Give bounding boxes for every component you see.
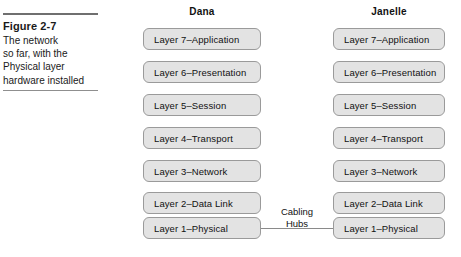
column-title-dana: Dana [143, 6, 261, 17]
caption-line-1: The network [3, 34, 98, 47]
layer-label: Layer 7–Application [144, 34, 239, 45]
layer-box-dana-5: Layer 5–Session [143, 94, 261, 116]
physical-link-label-cabling: Cabling [266, 206, 328, 218]
layer-label: Layer 3–Network [334, 166, 417, 177]
caption-line-3: Physical layer [3, 60, 98, 73]
layer-label: Layer 5–Session [334, 100, 416, 111]
physical-link-label: Cabling Hubs [266, 206, 328, 229]
figure-caption: Figure 2-7 The network so far, with the … [3, 13, 98, 91]
layer-label: Layer 2–Data Link [144, 198, 233, 209]
layer-box-janelle-4: Layer 4–Transport [333, 127, 445, 149]
layer-label: Layer 2–Data Link [334, 198, 423, 209]
layer-box-janelle-6: Layer 6–Presentation [333, 61, 445, 83]
layer-box-janelle-7: Layer 7–Application [333, 28, 445, 50]
figure-number-label: Figure 2-7 [3, 19, 98, 33]
layer-box-janelle-2: Layer 2–Data Link [333, 192, 445, 214]
caption-bottom-rule [3, 90, 98, 91]
caption-top-rule [3, 13, 98, 15]
layer-box-dana-3: Layer 3–Network [143, 160, 261, 182]
layer-box-dana-6: Layer 6–Presentation [143, 61, 261, 83]
layer-label: Layer 7–Application [334, 34, 429, 45]
layer-label: Layer 4–Transport [144, 133, 233, 144]
figure-canvas: Figure 2-7 The network so far, with the … [0, 0, 461, 257]
layer-label: Layer 6–Presentation [334, 67, 436, 78]
caption-line-2: so far, with the [3, 47, 98, 60]
layer-label: Layer 1–Physical [334, 223, 418, 234]
physical-link-label-hubs: Hubs [266, 218, 328, 230]
layer-label: Layer 1–Physical [144, 223, 228, 234]
layer-box-dana-1: Layer 1–Physical [143, 217, 261, 239]
layer-box-dana-7: Layer 7–Application [143, 28, 261, 50]
layer-label: Layer 3–Network [144, 166, 227, 177]
layer-box-janelle-3: Layer 3–Network [333, 160, 445, 182]
layer-box-dana-4: Layer 4–Transport [143, 127, 261, 149]
layer-label: Layer 4–Transport [334, 133, 423, 144]
layer-label: Layer 6–Presentation [144, 67, 246, 78]
layer-box-janelle-1: Layer 1–Physical [333, 217, 445, 239]
caption-line-4: hardware installed [3, 74, 98, 87]
column-title-janelle: Janelle [333, 6, 445, 17]
layer-box-janelle-5: Layer 5–Session [333, 94, 445, 116]
layer-box-dana-2: Layer 2–Data Link [143, 192, 261, 214]
layer-label: Layer 5–Session [144, 100, 226, 111]
